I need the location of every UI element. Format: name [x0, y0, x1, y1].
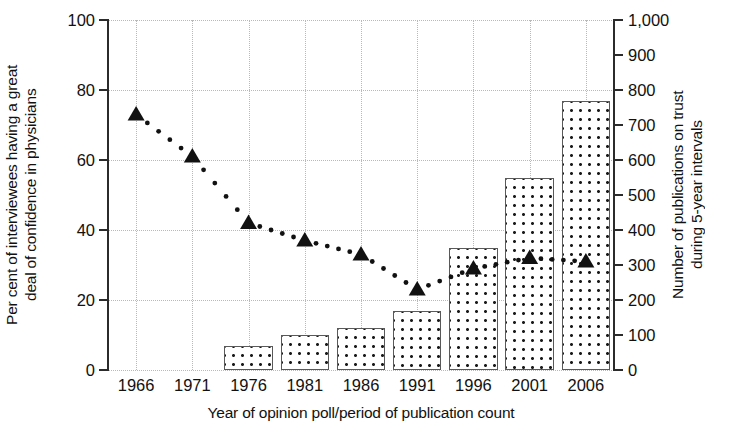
y-axis-right-tick [614, 264, 623, 266]
y-axis-right-tick-label: 300 [628, 257, 698, 273]
line-connector-dot [145, 121, 150, 126]
x-axis-tick-label-2006: 2006 [556, 376, 616, 395]
bar-1996 [449, 248, 497, 371]
y-axis-right-tick-label: 700 [628, 117, 698, 133]
vertical-gridline [249, 20, 250, 370]
line-connector-dot [392, 273, 397, 278]
y-axis-right-tick-label: 100 [628, 327, 698, 343]
y-axis-right-tick [614, 229, 623, 231]
line-connector-dot [347, 249, 352, 254]
bar-2001 [505, 178, 553, 371]
line-connector-dot [381, 266, 386, 271]
y-axis-left-tick-label: 40 [35, 222, 95, 238]
y-axis-left-tick [99, 369, 108, 371]
x-axis-tick-label-1966: 1966 [106, 376, 166, 395]
y-axis-right-tick [614, 334, 623, 336]
y-axis-right-tick [614, 369, 623, 371]
line-connector-dot [156, 129, 161, 134]
y-axis-left-tick [99, 229, 108, 231]
line-connector-dot [224, 194, 229, 199]
y-axis-right-tick-label: 900 [628, 47, 698, 63]
x-axis-tick-label-1996: 1996 [443, 376, 503, 395]
y-axis-right-tick [614, 299, 623, 301]
line-connector-dot [257, 224, 262, 229]
y-axis-left-tick-label: 100 [35, 12, 95, 28]
line-connector-dot [426, 283, 431, 288]
x-axis-tick-label-1981: 1981 [275, 376, 335, 395]
y-axis-right-tick-label: 400 [628, 222, 698, 238]
y-axis-right-tick-label: 1,000 [628, 12, 698, 28]
y-axis-left-line [107, 19, 109, 371]
line-connector-dot [201, 167, 206, 172]
line-connector-dot [235, 207, 240, 212]
y-axis-right-tick [614, 159, 623, 161]
vertical-gridline [192, 20, 193, 370]
y-axis-right-tick [614, 89, 623, 91]
y-axis-right-tick-label: 800 [628, 82, 698, 98]
vertical-gridline [361, 20, 362, 370]
line-connector-dot [336, 247, 341, 252]
x-axis-tick-label-1976: 1976 [219, 376, 279, 395]
chart-figure: Per cent of interviewees having a great … [0, 0, 739, 440]
bar-1991 [393, 311, 441, 371]
y-axis-left-tick-label: 80 [35, 82, 95, 98]
y-axis-right-tick-label: 600 [628, 152, 698, 168]
y-axis-left-tick [99, 89, 108, 91]
line-connector-dot [212, 181, 217, 186]
y-axis-title-left: Per cent of interviewees having a great … [2, 0, 42, 390]
horizontal-gridline [108, 370, 614, 371]
y-axis-left-tick-label: 60 [35, 152, 95, 168]
x-axis-title: Year of opinion poll/period of publicati… [108, 404, 614, 422]
line-connector-dot [291, 235, 296, 240]
vertical-gridline [136, 20, 137, 370]
y-axis-left-tick [99, 159, 108, 161]
y-axis-left-tick-label: 0 [35, 362, 95, 378]
y-axis-right-tick [614, 124, 623, 126]
bar-1986 [337, 328, 385, 370]
y-axis-right-tick [614, 19, 623, 21]
line-connector-dot [325, 244, 330, 249]
x-axis-tick-label-1986: 1986 [331, 376, 391, 395]
y-axis-right-tick-label: 500 [628, 187, 698, 203]
vertical-gridline [305, 20, 306, 370]
x-axis-tick-label-1971: 1971 [162, 376, 222, 395]
line-connector-dot [280, 231, 285, 236]
x-axis-tick-label-1991: 1991 [387, 376, 447, 395]
bar-1976 [224, 346, 272, 371]
y-axis-right-tick [614, 194, 623, 196]
line-connector-dot [314, 241, 319, 246]
line-connector-dot [179, 146, 184, 151]
y-axis-left-tick [99, 299, 108, 301]
x-axis-tick-label-2001: 2001 [500, 376, 560, 395]
line-connector-dot [370, 259, 375, 264]
y-axis-right-tick [614, 54, 623, 56]
y-axis-left-tick [99, 19, 108, 21]
y-axis-right-tick-label: 0 [628, 362, 698, 378]
line-connector-dot [437, 279, 442, 284]
line-connector-dot [167, 137, 172, 142]
y-axis-left-tick-label: 20 [35, 292, 95, 308]
y-axis-right-tick-label: 200 [628, 292, 698, 308]
bar-2006 [562, 101, 610, 371]
line-connector-dot [404, 280, 409, 285]
bar-1981 [281, 335, 329, 370]
